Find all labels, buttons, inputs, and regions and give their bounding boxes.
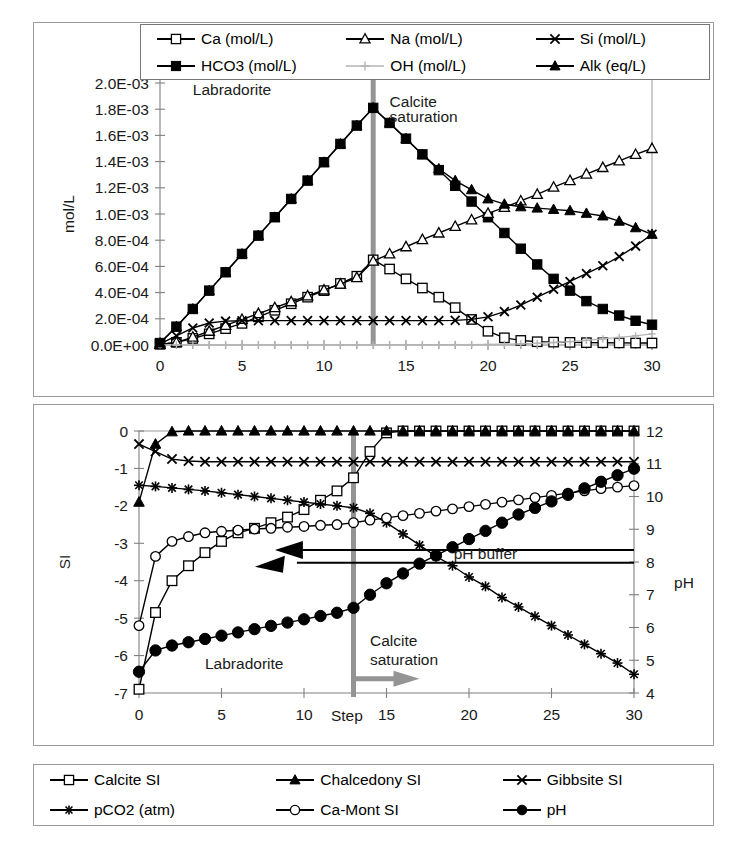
- legend-label: pCO2 (atm): [94, 802, 175, 818]
- legend-label: Chalcedony SI: [320, 772, 421, 788]
- legend-label: Calcite SI: [94, 772, 160, 788]
- legend-label: OH (mol/L): [390, 58, 466, 74]
- y-tick-label: 1.2E-03: [95, 179, 149, 196]
- y-tick-label: 8.0E-04: [95, 232, 150, 249]
- legend-item-pco2-atm: pCO2 (atm): [34, 801, 260, 819]
- y-tick-label-right: 6: [646, 619, 655, 636]
- annotation-labradorite: Labradorite: [193, 81, 271, 98]
- legend-label: HCO3 (mol/L): [201, 58, 297, 74]
- legend-item-na-mol-l: Na (mol/L): [330, 30, 519, 48]
- legend-label: Alk (eq/L): [580, 58, 646, 74]
- legend-item-ca-mont-si: Ca-Mont SI: [260, 801, 486, 819]
- legend-marker-open-circle-icon: [274, 801, 316, 819]
- series-line-ca-mol-l: [160, 260, 652, 344]
- legend-marker-open-triangle-icon: [344, 30, 386, 48]
- x-tick-label: 30: [625, 706, 643, 723]
- legend-label: pH: [547, 802, 567, 818]
- y-tick-label-left: -4: [114, 572, 128, 589]
- y-tick-label-right: 11: [646, 455, 662, 472]
- legend-item-chalcedony-si: Chalcedony SI: [260, 771, 486, 789]
- y-tick-label-left: -3: [114, 535, 128, 552]
- y-tick-label-right: 5: [646, 652, 655, 669]
- legend-label: Ca (mol/L): [201, 31, 273, 47]
- calcite-saturation-arrow-icon: [394, 671, 420, 687]
- legend-marker-open-square-icon: [155, 30, 197, 48]
- x-axis-title: Step: [331, 707, 363, 724]
- annotation-calcite: Calcite: [390, 93, 437, 110]
- y-tick-label-right: 7: [646, 586, 655, 603]
- legend-item-gibbsite-si: Gibbsite SI: [487, 771, 713, 789]
- x-tick-label: 20: [479, 357, 497, 374]
- bottom-chart-legend: Calcite SIChalcedony SIGibbsite SIpCO2 (…: [33, 764, 714, 826]
- x-tick-label: 5: [238, 357, 247, 374]
- y-tick-label-left: -7: [114, 685, 128, 702]
- legend-label: Gibbsite SI: [547, 772, 623, 788]
- y-tick-label-left: -5: [114, 610, 128, 627]
- x-tick-label: 10: [295, 706, 313, 723]
- series-line-gibbsite-si: [139, 444, 634, 462]
- figure-root: 0.0E+002.0E-044.0E-046.0E-048.0E-041.0E-…: [0, 0, 745, 853]
- x-tick-label: 0: [135, 706, 144, 723]
- y-tick-label: 1.4E-03: [95, 153, 149, 170]
- x-tick-label: 15: [397, 357, 414, 374]
- y-tick-label-left: 0: [119, 423, 128, 440]
- legend-marker-filled-triangle-icon: [534, 57, 576, 75]
- legend-marker-cross-x-icon: [534, 30, 576, 48]
- series-line-ca-mont-si: [139, 486, 634, 626]
- legend-item-alk-eq-l: Alk (eq/L): [520, 57, 709, 75]
- y-tick-label: 6.0E-04: [95, 258, 150, 275]
- legend-item-oh-mol-l: OH (mol/L): [330, 57, 519, 75]
- annotation-calcite: Calcite: [370, 632, 417, 649]
- top-chart-legend: Ca (mol/L)Na (mol/L)Si (mol/L)HCO3 (mol/…: [140, 24, 710, 80]
- x-tick-label: 25: [561, 357, 578, 374]
- y-tick-label-right: 4: [646, 685, 655, 702]
- bottom-chart-panel: -7-6-5-4-3-2-10SI456789101112pH051015202…: [33, 404, 714, 746]
- legend-item-si-mol-l: Si (mol/L): [520, 30, 709, 48]
- y-tick-label: 0.0E+00: [91, 337, 150, 354]
- y-axis-title-right: pH: [674, 574, 694, 591]
- x-tick-label: 25: [543, 706, 560, 723]
- legend-marker-cross-x-icon: [501, 771, 543, 789]
- y-tick-label-right: 12: [646, 423, 663, 440]
- legend-item-hco3-mol-l: HCO3 (mol/L): [141, 57, 330, 75]
- legend-marker-filled-square-icon: [155, 57, 197, 75]
- legend-label: Ca-Mont SI: [320, 802, 398, 818]
- y-axis-title-left: SI: [56, 555, 73, 570]
- ph-buffer-annotation: [255, 541, 634, 573]
- legend-item-ph: pH: [487, 801, 713, 819]
- legend-marker-filled-circle-icon: [501, 801, 543, 819]
- y-axis-title: mol/L: [60, 195, 77, 233]
- x-tick-label: 20: [460, 706, 478, 723]
- y-tick-label: 1.0E-03: [95, 206, 149, 223]
- annotation-saturation: saturation: [390, 108, 458, 125]
- x-tick-label: 0: [156, 357, 165, 374]
- x-tick-label: 10: [315, 357, 333, 374]
- legend-marker-filled-triangle-icon: [274, 771, 316, 789]
- annotation-ph-buffer: pH buffer: [454, 545, 517, 562]
- y-tick-label: 2.0E-04: [95, 310, 150, 327]
- bottom-chart-svg: -7-6-5-4-3-2-10SI456789101112pH051015202…: [34, 405, 713, 745]
- y-tick-label-right: 8: [646, 554, 655, 571]
- annotation-labradorite: Labradorite: [205, 655, 283, 672]
- series-markers-oh-mol-l: [156, 330, 655, 348]
- legend-item-ca-mol-l: Ca (mol/L): [141, 30, 330, 48]
- y-tick-label: 4.0E-04: [95, 284, 150, 301]
- legend-marker-open-square-icon: [48, 771, 90, 789]
- y-tick-label-left: -6: [114, 647, 128, 664]
- y-tick-label-left: -2: [114, 497, 128, 514]
- legend-marker-plus-icon: [344, 57, 386, 75]
- x-tick-label: 5: [217, 706, 226, 723]
- y-tick-label: 1.8E-03: [95, 101, 149, 118]
- legend-label: Na (mol/L): [390, 31, 462, 47]
- y-tick-label: 1.6E-03: [95, 127, 149, 144]
- series-markers-alk-eq-l: [155, 102, 657, 347]
- annotation-saturation: saturation: [370, 651, 438, 668]
- y-tick-label-left: -1: [114, 460, 128, 477]
- x-tick-label: 30: [643, 357, 661, 374]
- x-tick-label: 15: [378, 706, 395, 723]
- legend-marker-star-asterisk-icon: [48, 801, 90, 819]
- y-tick-label-right: 9: [646, 521, 655, 538]
- legend-item-calcite-si: Calcite SI: [34, 771, 260, 789]
- legend-label: Si (mol/L): [580, 31, 646, 47]
- y-tick-label-right: 10: [646, 488, 664, 505]
